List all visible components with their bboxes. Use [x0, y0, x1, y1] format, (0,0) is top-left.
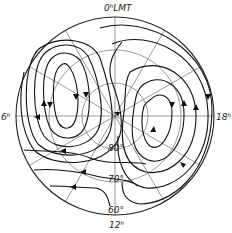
label-70deg: 70° [108, 174, 124, 184]
polar-diagram: 0ʰLMT 6ʰ 18ʰ 12ʰ 80° 70° 60° [0, 0, 232, 233]
label-80deg: 80° [108, 143, 124, 153]
label-0h-lmt: 0ʰLMT [104, 3, 133, 13]
label-18h: 18ʰ [216, 112, 231, 122]
label-60deg: 60° [108, 205, 124, 215]
label-6h: 6ʰ [1, 112, 11, 122]
label-12h: 12ʰ [109, 220, 124, 230]
